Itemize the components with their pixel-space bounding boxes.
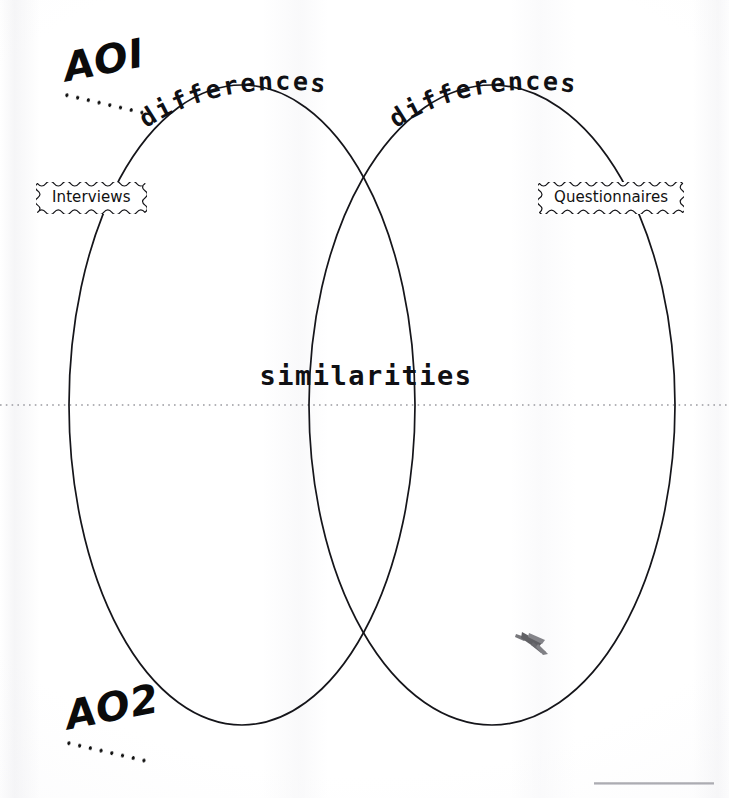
worksheet-page: differences differences similarities AOI… [0,0,729,798]
differences-label-left: differences [134,67,330,134]
venn-circle-left[interactable] [69,85,415,725]
circle-label-questionnaires[interactable]: Questionnaires [538,182,684,214]
circle-label-questionnaires-text: Questionnaires [554,188,668,206]
similarities-label: similarities [259,360,472,391]
venn-diagram-canvas: differences differences similarities [0,0,729,798]
circle-label-interviews-text: Interviews [52,188,131,206]
venn-circle-right[interactable] [309,85,675,725]
bottom-right-rule [594,782,714,785]
differences-label-right: differences [384,67,580,134]
circle-label-interviews[interactable]: Interviews [36,182,147,214]
